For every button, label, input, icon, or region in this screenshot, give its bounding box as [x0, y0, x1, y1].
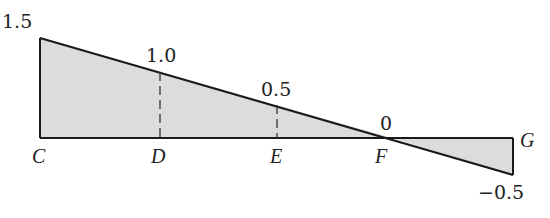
value-label-g: −0.5 [478, 181, 524, 203]
value-label-c: 1.5 [2, 10, 32, 32]
point-label-g: G [520, 129, 535, 151]
point-label-c: C [32, 145, 46, 167]
value-label-d: 1.0 [146, 44, 176, 66]
point-label-e: E [269, 145, 282, 167]
point-label-f: F [374, 145, 388, 167]
value-label-e: 0.5 [261, 78, 291, 100]
influence-line-diagram: 1.5 1.0 0.5 0 −0.5 C D E F G [0, 0, 550, 218]
point-label-d: D [150, 145, 166, 167]
value-label-f: 0 [380, 112, 392, 134]
